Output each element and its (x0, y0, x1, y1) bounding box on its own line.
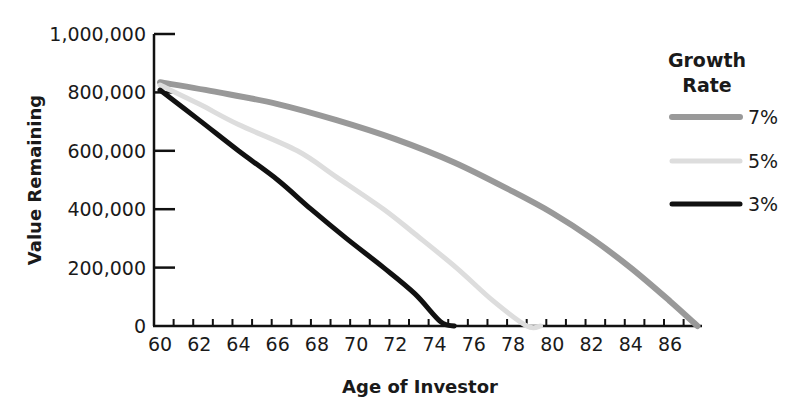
legend-label: 7% (748, 106, 778, 128)
legend: Growth Rate 7%5%3% (668, 49, 778, 215)
legend-title-line2: Rate (682, 74, 731, 96)
series-layer (160, 82, 697, 328)
x-axis-title: Age of Investor (342, 376, 498, 397)
y-tick-label: 0 (134, 315, 146, 337)
y-axis: 0200,000400,000600,000800,0001,000,000 (49, 23, 175, 337)
x-tick-label: 80 (540, 333, 564, 355)
x-tick-label: 76 (462, 333, 486, 355)
y-tick-label: 1,000,000 (49, 23, 146, 45)
x-tick-label: 86 (658, 333, 682, 355)
legend-title-line1: Growth (668, 49, 746, 71)
x-tick-label: 72 (383, 333, 407, 355)
line-chart: 0200,000400,000600,000800,0001,000,000 6… (0, 0, 801, 414)
x-tick-label: 78 (501, 333, 525, 355)
x-tick-label: 66 (266, 333, 290, 355)
y-tick-label: 400,000 (67, 198, 146, 220)
x-tick-label: 62 (187, 333, 211, 355)
legend-label: 3% (748, 193, 778, 215)
series-line-3pct (160, 90, 454, 326)
x-axis: 6062646668707274767880828486 (148, 319, 702, 355)
legend-item-3pct: 3% (672, 193, 778, 215)
legend-label: 5% (748, 150, 778, 172)
x-tick-label: 84 (619, 333, 643, 355)
legend-item-5pct: 5% (672, 150, 778, 172)
series-line-7pct (160, 82, 697, 326)
y-tick-label: 200,000 (67, 257, 146, 279)
y-axis-title: Value Remaining (24, 95, 45, 265)
y-tick-label: 800,000 (67, 81, 146, 103)
x-tick-label: 60 (148, 333, 172, 355)
x-tick-label: 68 (305, 333, 329, 355)
x-tick-label: 64 (226, 333, 250, 355)
y-tick-label: 600,000 (67, 140, 146, 162)
x-tick-label: 82 (579, 333, 603, 355)
x-tick-label: 70 (344, 333, 368, 355)
x-tick-label: 74 (423, 333, 447, 355)
legend-item-7pct: 7% (672, 106, 778, 128)
